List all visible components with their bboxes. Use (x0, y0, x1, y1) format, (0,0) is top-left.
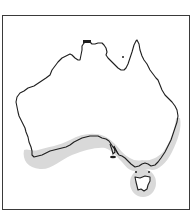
bass-strait-island (148, 171, 150, 173)
kangaroo-island (110, 156, 116, 158)
australia-map (0, 0, 196, 212)
distribution-range (24, 118, 181, 197)
groote-eylandt (122, 56, 124, 58)
tiwi-islands (83, 40, 91, 43)
bass-strait-island (135, 171, 137, 173)
